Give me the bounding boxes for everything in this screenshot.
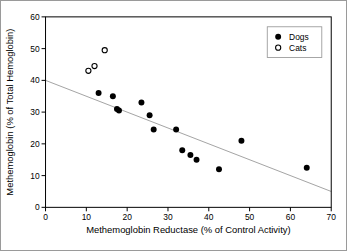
data-point-dogs [187, 152, 193, 158]
legend-marker-dogs-icon [275, 34, 281, 40]
regression-line [46, 80, 332, 191]
legend-label-dogs: Dogs [289, 32, 309, 42]
data-point-dogs [194, 157, 200, 163]
x-tick-label: 10 [82, 212, 92, 222]
y-tick-label: 10 [30, 171, 40, 181]
x-tick-label: 30 [163, 212, 173, 222]
data-point-cats [102, 48, 107, 53]
data-point-dogs [304, 165, 310, 171]
data-point-dogs [216, 166, 222, 172]
data-point-dogs [151, 127, 157, 133]
x-axis-label: Methemoglobin Reductase (% of Control Ac… [86, 224, 290, 235]
y-tick-label: 60 [30, 12, 40, 22]
y-tick-label: 40 [30, 75, 40, 85]
data-point-dogs [116, 108, 122, 114]
data-point-dogs [96, 90, 102, 96]
y-axis-label: Methemoglobin (% of Total Hemoglobin) [4, 29, 15, 196]
y-tick-label: 0 [35, 202, 40, 212]
data-point-cats [86, 68, 91, 73]
x-tick-label: 70 [327, 212, 337, 222]
data-point-dogs [179, 147, 185, 153]
y-tick-label: 30 [30, 107, 40, 117]
x-tick-label: 60 [286, 212, 296, 222]
x-tick-label: 20 [122, 212, 132, 222]
figure: 0102030405060700102030405060DogsCatsMeth… [0, 0, 347, 251]
data-point-dogs [110, 93, 116, 99]
x-tick-label: 40 [204, 212, 214, 222]
data-point-dogs [238, 138, 244, 144]
x-tick-label: 50 [245, 212, 255, 222]
data-point-dogs [138, 100, 144, 106]
x-tick-label: 0 [43, 212, 48, 222]
data-point-dogs [173, 127, 179, 133]
y-tick-label: 20 [30, 139, 40, 149]
y-tick-label: 50 [30, 44, 40, 54]
legend-marker-cats-icon [276, 45, 281, 50]
data-point-dogs [147, 112, 153, 118]
scatter-chart: 0102030405060700102030405060DogsCatsMeth… [1, 1, 346, 250]
legend-label-cats: Cats [289, 43, 306, 53]
data-point-cats [92, 63, 97, 68]
